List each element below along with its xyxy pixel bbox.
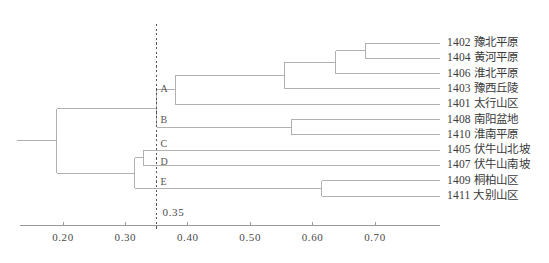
leaf-label-1410: 1410 淮南平原 bbox=[447, 129, 519, 141]
group-label-b: B bbox=[161, 115, 168, 125]
axis-tick-label-0: 0.20 bbox=[33, 232, 93, 243]
leaf-label-1408: 1408 南阳盆地 bbox=[447, 114, 519, 126]
cut-line-label: 0.35 bbox=[163, 207, 185, 218]
axis-tick-label-3: 0.50 bbox=[220, 232, 280, 243]
group-label-a: A bbox=[161, 84, 168, 94]
group-label-d: D bbox=[161, 157, 168, 167]
leaf-label-1409: 1409 桐柏山区 bbox=[447, 175, 519, 187]
leaf-label-1406: 1406 淮北平原 bbox=[447, 68, 519, 80]
axis-tick-label-2: 0.40 bbox=[158, 232, 218, 243]
axis-tick-label-4: 0.60 bbox=[283, 232, 343, 243]
group-label-c: C bbox=[161, 139, 168, 149]
leaf-label-1411: 1411 大别山区 bbox=[447, 190, 518, 202]
axis-tick-label-1: 0.30 bbox=[95, 232, 155, 243]
axis-tick-label-5: 0.70 bbox=[345, 232, 405, 243]
leaf-label-1403: 1403 豫西丘陵 bbox=[447, 83, 519, 95]
leaf-label-1401: 1401 太行山区 bbox=[447, 98, 519, 110]
dendrogram-figure: 0.200.300.400.500.600.700.351402 豫北平原140… bbox=[0, 0, 549, 263]
leaf-label-1404: 1404 黄河平原 bbox=[447, 52, 519, 64]
leaf-label-1405: 1405 伏牛山北坡 bbox=[447, 144, 530, 156]
group-label-e: E bbox=[161, 177, 167, 187]
leaf-label-1407: 1407 伏牛山南坡 bbox=[447, 159, 530, 171]
leaf-label-1402: 1402 豫北平原 bbox=[447, 37, 519, 49]
